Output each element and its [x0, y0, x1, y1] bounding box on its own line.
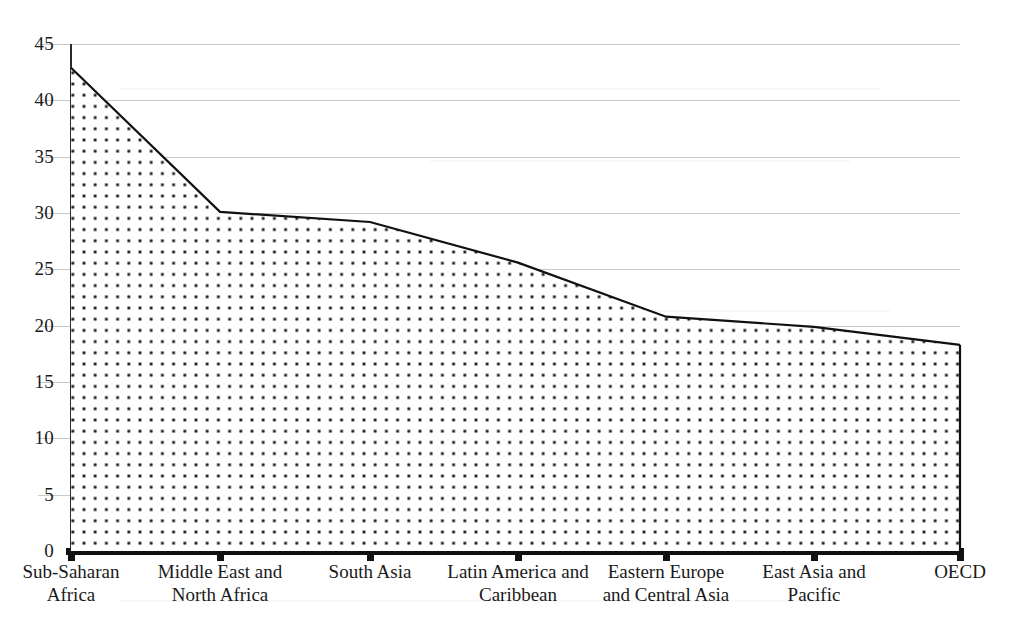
gridline — [38, 326, 960, 327]
x-tick-label-4: Eastern Europe and Central Asia — [586, 560, 746, 606]
y-axis-line — [70, 44, 72, 552]
x-tick-label-6: OECD — [880, 560, 1010, 583]
y-tick-label: 15 — [20, 372, 54, 391]
x-tick-label-3: Latin America and Caribbean — [438, 560, 598, 606]
gridline — [38, 495, 960, 496]
y-tick-label: 40 — [20, 90, 54, 109]
x-tick-label-0: Sub-Saharan Africa — [0, 560, 151, 606]
scan-artifact — [430, 160, 850, 162]
y-tick-label: 20 — [20, 316, 54, 335]
area-chart: 051015202530354045 Sub-Saharan AfricaMid… — [0, 0, 1010, 624]
y-tick-label: 10 — [20, 428, 54, 447]
series-area — [0, 0, 1010, 624]
gridline — [38, 382, 960, 383]
y-tick-label: 5 — [20, 485, 54, 504]
x-tick-label-5: East Asia and Pacific — [734, 560, 894, 606]
gridline — [38, 100, 960, 101]
y-tick-label: 0 — [20, 541, 54, 560]
gridline — [38, 157, 960, 158]
gridline — [38, 44, 960, 45]
y-tick-label: 25 — [20, 259, 54, 278]
x-tick-label-2: South Asia — [290, 560, 450, 583]
gridline — [38, 213, 960, 214]
scan-artifact — [120, 88, 880, 90]
y-tick-label: 45 — [20, 34, 54, 53]
y-tick-label: 35 — [20, 147, 54, 166]
scan-artifact — [560, 310, 890, 312]
gridline — [38, 438, 960, 439]
y-tick-label: 30 — [20, 203, 54, 222]
x-tick-label-1: Middle East and North Africa — [140, 560, 300, 606]
gridline — [38, 269, 960, 270]
